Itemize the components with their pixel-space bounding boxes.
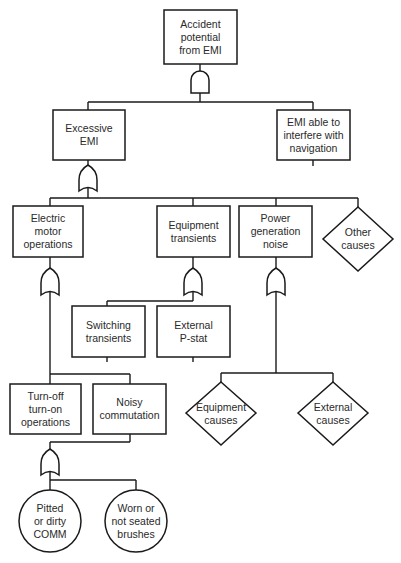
node-label-other-causes: Other causes [323, 207, 393, 271]
node-label-power-generation: Power generation noise [239, 206, 312, 257]
and-gate-icon [191, 71, 209, 93]
node-label-switching-transients: Switching transients [72, 306, 145, 357]
node-label-equipment-causes: Equipment causes [186, 382, 256, 445]
or-gate-icon [41, 449, 59, 475]
node-label-equipment-transients: Equipment transients [157, 206, 230, 257]
node-label-external-causes: External causes [298, 382, 368, 445]
node-label-noisy-commutation: Noisy commutation [93, 384, 166, 434]
or-gate-icon [267, 268, 285, 295]
node-label-electric-motor: Electric motor operations [13, 206, 83, 257]
or-gate-icon [41, 268, 59, 295]
node-label-top: Accident potential from EMI [164, 10, 237, 64]
node-label-pitted-comm: Pitted or dirty COMM [19, 490, 81, 552]
fault-tree-diagram [0, 0, 401, 563]
or-gate-icon [79, 165, 97, 191]
node-label-worn-brushes: Worn or not seated brushes [105, 490, 167, 552]
node-label-external-pstat: External P-stat [157, 306, 230, 357]
node-label-emi-interfere: EMI able to interfere with navigation [277, 110, 350, 160]
node-label-excessive-emi: Excessive EMI [53, 110, 125, 160]
node-label-turn-off-on: Turn-off turn-on operations [10, 384, 81, 434]
or-gate-icon [184, 268, 202, 295]
